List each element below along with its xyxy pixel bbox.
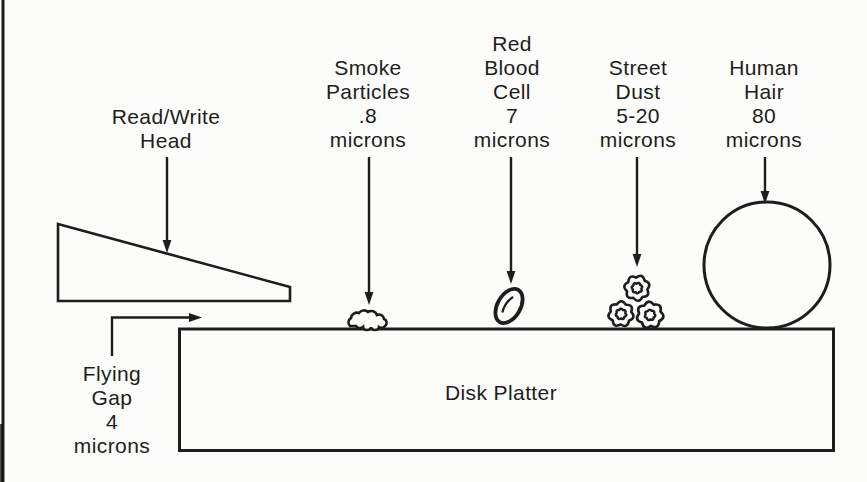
dust-blob [603,296,638,331]
arrow-human-hair [761,157,770,204]
arrow-street-dust [633,157,642,267]
disk-contamination-diagram: Read/Write Head Smoke Particles .8 micro… [0,0,867,482]
label-line: .8 [326,104,410,128]
arrow-read-write-head [163,157,172,253]
label-line: Disk Platter [445,381,557,405]
page-edge-line [2,0,4,482]
arrowhead [189,313,202,322]
label-line: 7 [474,104,550,128]
label-line: Blood [474,56,550,80]
label-line: microns [600,128,676,152]
label-line: Particles [326,80,410,104]
label-red-blood-cell: Red Blood Cell 7 microns [474,32,550,152]
arrowhead [365,292,374,305]
label-line: 5-20 [600,104,676,128]
label-line: microns [326,128,410,152]
arrow-smoke-particles [365,157,374,305]
label-flying-gap: Flying Gap 4 microns [74,362,150,458]
arrowhead [633,254,642,267]
dust-blob [623,274,651,302]
label-line: Read/Write [112,105,221,129]
arrow-red-blood-cell [507,157,516,284]
label-line: microns [726,128,802,152]
read-write-head-shape [58,224,290,301]
label-line: Dust [600,80,676,104]
label-read-write-head: Read/Write Head [112,105,221,153]
label-smoke-particles: Smoke Particles .8 microns [326,56,410,152]
arrowhead [163,240,172,253]
red-blood-cell-shape [490,284,528,328]
label-human-hair: Human Hair 80 microns [726,56,802,152]
street-dust-shape [603,274,666,332]
smoke-particle-shape [348,310,386,330]
red-blood-cell-outline [490,284,528,328]
human-hair-shape [704,202,830,328]
label-line: Gap [74,386,150,410]
dust-blob [633,299,666,332]
label-line: Flying [74,362,150,386]
label-line: 4 [74,410,150,434]
label-line: Red [474,32,550,56]
label-line: Human [726,56,802,80]
label-line: Street [600,56,676,80]
label-line: Hair [726,80,802,104]
label-line: microns [74,434,150,458]
label-street-dust: Street Dust 5-20 microns [600,56,676,152]
arrowhead [507,271,516,284]
label-line: microns [474,128,550,152]
label-disk-platter: Disk Platter [445,381,557,405]
label-line: Smoke [326,56,410,80]
label-line: Head [112,129,221,153]
label-line: Cell [474,80,550,104]
label-line: 80 [726,104,802,128]
